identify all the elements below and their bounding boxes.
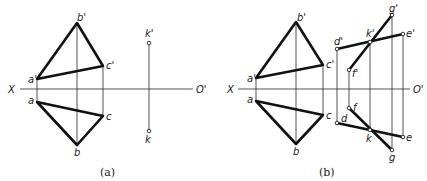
label-b-b: b [293,146,299,157]
label-b-prime-a: b' [77,12,86,23]
label-e-prime: e' [406,28,415,39]
axis-label-x-a: X [7,84,16,95]
label-f-prime: f' [352,68,358,79]
point-d [335,121,339,125]
label-f: f [353,102,358,113]
label-g-prime: g' [389,3,398,14]
label-a-b: a [247,94,253,105]
axis-label-o-a: O' [196,84,207,95]
triangle-top-b [256,101,323,144]
label-a-prime-b: a' [247,73,256,84]
projection-diagram: X O' b' c' a' a c b k' k (a) X O' [0,0,427,181]
caption-b: (b) [319,166,335,179]
panel-a: X O' b' c' a' a c b k' k (a) [7,12,207,179]
label-d: d [341,113,348,124]
point-k-a [147,129,151,133]
label-c-prime-a: c' [106,60,114,71]
axis-label-x-b: X [226,84,235,95]
label-a-prime-a: a' [28,74,37,85]
label-b-prime-b: b' [297,12,306,23]
panel-b: X O' b' c' a' a c [226,3,424,179]
point-d-prime [335,47,339,51]
label-c-a: c [106,111,112,122]
point-e [401,135,405,139]
label-g: g [389,152,395,163]
label-k-b: k [366,133,373,144]
triangle-top-a [37,102,103,145]
point-k-prime-a [147,41,151,45]
triangle-front-a [37,23,103,79]
caption-a: (a) [100,166,115,179]
point-k-b [368,128,372,132]
point-f-prime [347,68,351,72]
label-c-prime-b: c' [326,59,334,70]
label-k-a: k [145,134,152,145]
label-b-a: b [74,147,80,158]
label-c-b: c [326,110,332,121]
label-k-prime-b: k' [366,28,375,39]
triangle-front-b [256,22,323,78]
axis-label-o-b: O' [413,84,424,95]
label-a-a: a [28,95,34,106]
point-e-prime [401,32,405,36]
point-k-prime-b [368,40,372,44]
label-e: e [406,132,412,143]
point-f [347,106,351,110]
label-d-prime: d' [334,36,343,47]
label-k-prime-a: k' [145,28,154,39]
